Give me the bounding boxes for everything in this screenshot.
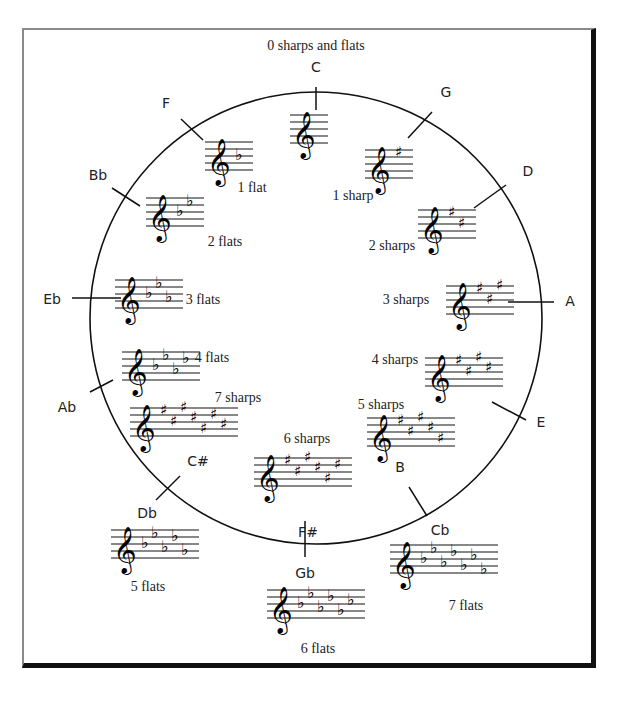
flat-icon: ♭ <box>172 359 180 378</box>
flat-icon: ♭ <box>430 538 438 557</box>
flat-icon: ♭ <box>155 273 163 292</box>
sharp-icon: ♯ <box>465 362 472 380</box>
flat-icon: ♭ <box>161 537 169 556</box>
flat-icon: ♭ <box>480 559 488 578</box>
flat-icon: ♭ <box>162 345 170 364</box>
key-tick-mark <box>492 402 526 420</box>
sharp-icon: ♯ <box>407 422 414 440</box>
keys-layer: C𝄞G𝄞♯1 sharpD𝄞♯♯2 sharpsA𝄞♯♯♯3 sharpsE𝄞♯… <box>43 59 575 656</box>
accidental-count-label: 3 sharps <box>383 292 429 307</box>
sharp-icon: ♯ <box>190 408 197 426</box>
key-name-label: Eb <box>43 291 61 307</box>
key-name-label: Bb <box>89 167 108 183</box>
key-a: A𝄞♯♯♯3 sharps <box>383 276 575 332</box>
accidental-count-label: 1 sharp <box>333 188 374 203</box>
flat-icon: ♭ <box>337 600 345 619</box>
key-name-label: Ab <box>58 399 77 415</box>
treble-clef-icon: 𝄞 <box>269 586 293 635</box>
accidental-count-label: 1 flat <box>237 180 266 195</box>
sharp-icon: ♯ <box>304 448 311 466</box>
sharp-icon: ♯ <box>324 469 331 487</box>
treble-clef-icon: 𝄞 <box>124 348 148 397</box>
accidental-count-label: 2 sharps <box>369 238 415 253</box>
sharp-icon: ♯ <box>475 348 482 366</box>
treble-clef-icon: 𝄞 <box>420 206 444 255</box>
sharp-icon: ♯ <box>397 411 404 429</box>
sharp-icon: ♯ <box>496 276 503 294</box>
sharp-icon: ♯ <box>485 358 492 376</box>
staff: 𝄞♭♭♭♭♭♭ <box>267 583 365 636</box>
sharp-icon: ♯ <box>476 279 483 297</box>
flat-icon: ♭ <box>297 593 305 612</box>
flat-icon: ♭ <box>420 548 428 567</box>
title-label: 0 sharps and flats <box>267 38 365 53</box>
staff: 𝄞♭♭♭♭ <box>122 345 200 398</box>
staff: 𝄞♯♯♯ <box>446 276 514 332</box>
accidental-count-label: 6 sharps <box>284 431 330 446</box>
key-name-label: E <box>537 414 546 430</box>
key-name-label: A <box>565 293 575 309</box>
key-tick-mark <box>409 487 427 516</box>
treble-clef-icon: 𝄞 <box>292 111 316 160</box>
treble-clef-icon: 𝄞 <box>148 194 172 243</box>
accidental-count-label: 4 flats <box>195 350 230 365</box>
sharp-icon: ♯ <box>486 290 493 308</box>
flat-icon: ♭ <box>182 348 190 367</box>
key-c-sharp: C#𝄞♯♯♯♯♯♯♯7 sharps <box>130 390 261 500</box>
key-name-label: C <box>311 59 321 75</box>
sharp-icon: ♯ <box>200 419 207 437</box>
flat-icon: ♭ <box>440 552 448 571</box>
treble-clef-icon: 𝄞 <box>113 526 137 575</box>
sharp-icon: ♯ <box>294 462 301 480</box>
flat-icon: ♭ <box>171 526 179 545</box>
flat-icon: ♭ <box>460 555 468 574</box>
flat-icon: ♭ <box>347 590 355 609</box>
staff: 𝄞♯♯♯♯♯♯♯ <box>130 398 238 454</box>
flat-icon: ♭ <box>327 586 335 605</box>
key-tick-mark <box>112 188 140 206</box>
flat-icon: ♭ <box>235 145 243 164</box>
flat-icon: ♭ <box>450 541 458 560</box>
sharp-icon: ♯ <box>210 405 217 423</box>
sharp-icon: ♯ <box>160 401 167 419</box>
treble-clef-icon: 𝄞 <box>207 138 231 187</box>
treble-clef-icon: 𝄞 <box>117 276 141 325</box>
staff: 𝄞♯♯♯♯ <box>425 348 503 404</box>
treble-clef-icon: 𝄞 <box>256 454 280 503</box>
staff: 𝄞♯♯♯♯♯♯ <box>254 448 352 504</box>
key-b: B𝄞♯♯♯♯♯5 sharps <box>358 397 455 475</box>
accidental-count-label: 6 flats <box>301 641 336 656</box>
sharp-icon: ♯ <box>455 351 462 369</box>
treble-clef-icon: 𝄞 <box>132 404 156 453</box>
sharp-icon: ♯ <box>395 143 402 161</box>
staff: 𝄞♭♭♭♭♭ <box>111 523 199 576</box>
accidental-count-label: 4 sharps <box>372 352 418 367</box>
sharp-icon: ♯ <box>458 214 465 232</box>
sharp-icon: ♯ <box>437 429 444 447</box>
sharp-icon: ♯ <box>427 418 434 436</box>
accidental-count-label: 3 flats <box>186 292 221 307</box>
key-name-label: Db <box>137 505 157 521</box>
sharp-icon: ♯ <box>180 398 187 416</box>
flat-icon: ♭ <box>181 540 189 559</box>
key-tick-mark <box>181 119 203 140</box>
key-name-label: F# <box>298 524 318 540</box>
staff: 𝄞♭♭♭ <box>115 273 183 326</box>
sharp-icon: ♯ <box>417 408 424 426</box>
sharp-icon: ♯ <box>334 455 341 473</box>
staff: 𝄞♭♭♭♭♭♭♭ <box>390 538 498 591</box>
key-f-sharp: F#𝄞♯♯♯♯♯♯6 sharps <box>254 431 352 540</box>
sharp-icon: ♯ <box>220 415 227 433</box>
key-d: D𝄞♯♯2 sharps <box>369 163 534 255</box>
staff: 𝄞♯♯ <box>418 203 476 255</box>
key-tick-mark <box>408 112 432 138</box>
flat-icon: ♭ <box>307 583 315 602</box>
staff: 𝄞♭♭ <box>146 191 204 244</box>
key-f: F𝄞♭1 flat <box>162 95 267 195</box>
key-name-label: G <box>441 84 452 100</box>
key-name-label: D <box>523 163 534 179</box>
circle-of-fifths-ring <box>90 92 542 544</box>
sharp-icon: ♯ <box>314 458 321 476</box>
flat-icon: ♭ <box>151 523 159 542</box>
circle-of-fifths-diagram: 0 sharps and flats C𝄞G𝄞♯1 sharpD𝄞♯♯2 sha… <box>0 0 619 702</box>
